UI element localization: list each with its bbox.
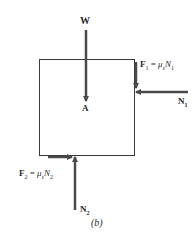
normal2-subscript: 2	[87, 210, 90, 216]
friction1-n-subscript: 1	[171, 65, 174, 71]
normal2-label: N2	[80, 205, 90, 216]
friction2-equals: =	[28, 168, 38, 178]
free-body-diagram	[0, 0, 194, 236]
friction1-equals: =	[149, 59, 159, 69]
caption: (b)	[91, 218, 103, 228]
center-label: A	[82, 104, 89, 113]
normal1-label: N1	[178, 97, 188, 108]
friction2-label: F2 = μsN2	[19, 169, 53, 180]
friction1-label: F1 = μsN1	[140, 60, 174, 71]
normal1-subscript: 1	[185, 102, 188, 108]
weight-label: W	[80, 16, 90, 26]
friction2-n-subscript: 2	[50, 174, 53, 180]
